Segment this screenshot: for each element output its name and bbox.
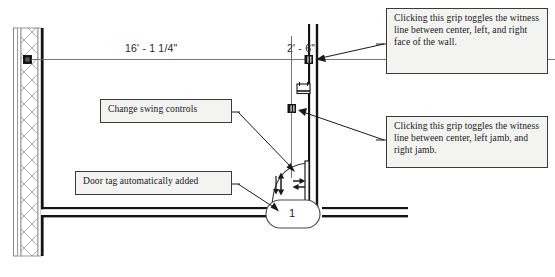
door-width-dimension-label[interactable]: 2' - 6" xyxy=(287,42,315,54)
bottom-wall-right-top-face xyxy=(322,207,408,209)
bottom-wall-bottom-face xyxy=(41,215,273,217)
callout-change-swing-controls: Change swing controls xyxy=(100,99,232,123)
callout-jamb-witness-grip: Clicking this grip toggles the witness l… xyxy=(386,116,548,168)
wall-inner-layer xyxy=(38,28,41,256)
wall-witness-grip-icon[interactable] xyxy=(24,56,32,64)
flip-horizontal-arrow-icon[interactable] xyxy=(293,178,306,190)
bottom-wall-body xyxy=(41,209,273,215)
bottom-horizontal-wall xyxy=(41,207,408,217)
witness-line-toggle-icon[interactable] xyxy=(297,82,310,94)
bottom-wall-right-bottom-face xyxy=(322,215,408,217)
callout-door-tag-automatically-added: Door tag automatically added xyxy=(75,171,232,195)
wall-dimension-grip-icon[interactable] xyxy=(305,55,314,64)
diagram-canvas: 16' - 1 1/4" 2' - 6" 1 Change swing cont… xyxy=(0,0,555,277)
wall-air-gap-layer xyxy=(18,28,22,256)
wall-inner-face-line xyxy=(41,28,44,256)
door-tag-number[interactable]: 1 xyxy=(289,207,295,219)
wall-outer-layer xyxy=(14,28,18,256)
jamb-witness-grip-icon[interactable] xyxy=(288,104,297,113)
flip-vertical-arrow-icon[interactable] xyxy=(273,173,284,196)
bottom-wall-right-body xyxy=(322,209,408,215)
right-wall-right-face xyxy=(316,24,318,208)
callout-wall-witness-grip: Clicking this grip toggles the witness l… xyxy=(386,8,548,74)
wall-to-door-dimension-label[interactable]: 16' - 1 1/4" xyxy=(125,42,178,54)
bottom-wall-top-face xyxy=(41,207,273,209)
leader-change-swing-controls xyxy=(238,112,295,172)
